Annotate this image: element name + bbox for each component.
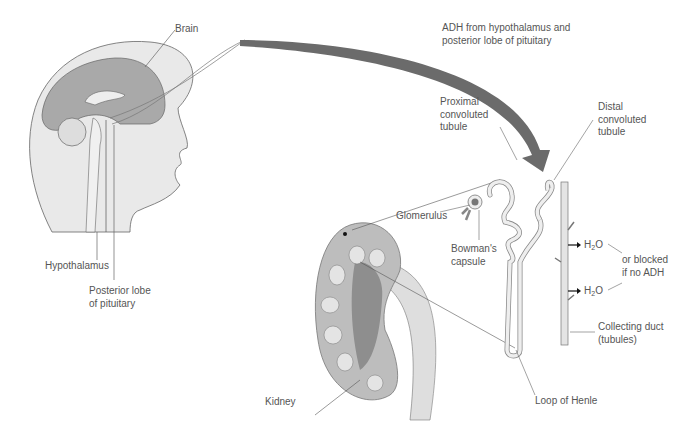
label-distal-1: Distal bbox=[598, 101, 623, 113]
label-bowmans-1: Bowman's bbox=[451, 243, 497, 255]
label-h2o-bottom: H2O bbox=[584, 285, 603, 300]
label-posterior-1: Posterior lobe bbox=[89, 285, 151, 297]
label-proximal-1: Proximal bbox=[440, 96, 479, 108]
label-h2o-top: H2O bbox=[584, 239, 603, 254]
proximal-tubule bbox=[489, 182, 541, 356]
label-adh-line1: ADH from hypothalamus and bbox=[442, 22, 570, 34]
label-hypothalamus: Hypothalamus bbox=[45, 260, 109, 272]
label-collecting-1: Collecting duct bbox=[598, 321, 664, 333]
collecting-duct bbox=[561, 182, 568, 345]
label-adh-line2: posterior lobe of pituitary bbox=[442, 35, 552, 47]
label-blocked-1: or blocked bbox=[622, 254, 668, 266]
ureter bbox=[385, 265, 436, 420]
label-loop-of-henle: Loop of Henle bbox=[535, 395, 597, 407]
label-glomerulus: Glomerulus bbox=[396, 210, 447, 222]
label-distal-3: tubule bbox=[598, 126, 625, 138]
label-proximal-3: tubule bbox=[440, 121, 467, 133]
label-collecting-2: (tubules) bbox=[598, 334, 637, 346]
label-blocked-2: if no ADH bbox=[622, 267, 664, 279]
label-brain: Brain bbox=[175, 23, 198, 35]
cerebellum bbox=[58, 118, 86, 146]
diagram-canvas bbox=[0, 0, 693, 425]
label-proximal-2: convoluted bbox=[440, 109, 488, 121]
label-posterior-2: of pituitary bbox=[89, 298, 135, 310]
label-distal-2: convoluted bbox=[598, 114, 646, 126]
adh-arrow bbox=[240, 40, 550, 172]
label-kidney: Kidney bbox=[265, 396, 296, 408]
label-bowmans-2: capsule bbox=[451, 256, 485, 268]
